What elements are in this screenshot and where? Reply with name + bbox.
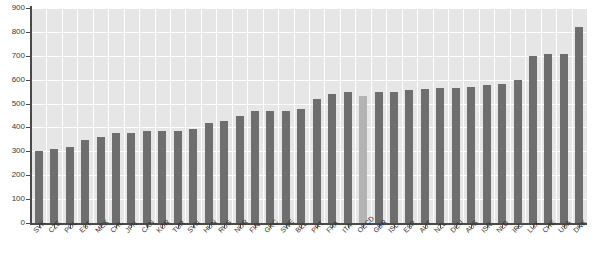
gridline-vertical <box>247 8 248 223</box>
bar-grc[interactable] <box>266 111 274 223</box>
gridline-vertical <box>232 8 233 223</box>
bar-oecd[interactable] <box>359 96 367 223</box>
bar-chart: 0100200300400500600700800900 SVKCZEPOLES… <box>0 0 592 261</box>
bar-usa[interactable] <box>560 54 568 223</box>
gridline-vertical <box>77 8 78 223</box>
x-axis-tick <box>270 225 271 228</box>
gridline-vertical <box>541 8 542 223</box>
x-axis-tick <box>224 225 225 228</box>
bar-hun[interactable] <box>205 123 213 223</box>
y-axis-tick <box>26 151 31 152</box>
bar-gbr[interactable] <box>375 92 383 223</box>
bar-chl[interactable] <box>112 133 120 223</box>
y-axis-tick <box>26 80 31 81</box>
bar-rus[interactable] <box>220 121 228 223</box>
gridline-vertical <box>278 8 279 223</box>
bar-can[interactable] <box>143 131 151 223</box>
x-axis-tick <box>363 225 364 228</box>
x-axis-tick <box>39 225 40 228</box>
bar-ita[interactable] <box>344 92 352 223</box>
bar-fra[interactable] <box>328 94 336 223</box>
x-axis-tick <box>162 225 163 228</box>
bar-lux[interactable] <box>529 56 537 223</box>
x-axis-tick <box>193 225 194 228</box>
x-axis-tick <box>548 225 549 228</box>
x-axis-tick <box>101 225 102 228</box>
bar-isl[interactable] <box>390 92 398 223</box>
gridline-vertical <box>386 8 387 223</box>
y-axis-tick-label: 600 <box>1 75 25 84</box>
bar-fin[interactable] <box>251 111 259 223</box>
x-axis-tick <box>502 225 503 228</box>
plot-area <box>31 8 587 223</box>
bar-cze[interactable] <box>50 149 58 223</box>
gridline-vertical <box>402 8 403 223</box>
y-axis-tick <box>26 223 31 224</box>
gridline-vertical <box>371 8 372 223</box>
x-axis-tick <box>131 225 132 228</box>
bar-kor[interactable] <box>158 131 166 223</box>
x-axis-tick <box>147 225 148 228</box>
bar-deu[interactable] <box>452 88 460 223</box>
gridline-vertical <box>124 8 125 223</box>
gridline-vertical <box>556 8 557 223</box>
gridline-vertical <box>479 8 480 223</box>
gridline-vertical <box>185 8 186 223</box>
y-axis-tick-label: 200 <box>1 170 25 179</box>
gridline-vertical <box>62 8 63 223</box>
y-axis-tick <box>26 199 31 200</box>
bar-isr[interactable] <box>483 85 491 223</box>
x-axis-tick <box>317 225 318 228</box>
gridline-vertical <box>433 8 434 223</box>
bar-jpn[interactable] <box>127 133 135 223</box>
bar-svn[interactable] <box>189 129 197 223</box>
bar-pol[interactable] <box>66 147 74 223</box>
gridline-vertical <box>155 8 156 223</box>
x-axis-tick <box>116 225 117 228</box>
x-axis-tick <box>348 225 349 228</box>
bar-swe[interactable] <box>282 111 290 223</box>
y-axis-tick-label: 700 <box>1 51 25 60</box>
bar-che[interactable] <box>544 54 552 223</box>
bar-nld[interactable] <box>498 84 506 223</box>
x-axis-tick <box>487 225 488 228</box>
x-axis-tick <box>70 225 71 228</box>
bar-aus[interactable] <box>467 87 475 223</box>
bar-bel[interactable] <box>297 109 305 223</box>
x-axis-tick <box>564 225 565 228</box>
bar-nzl[interactable] <box>436 88 444 223</box>
gridline-vertical <box>309 8 310 223</box>
y-axis-tick-label: 0 <box>1 218 25 227</box>
gridline-vertical <box>355 8 356 223</box>
x-axis-tick <box>471 225 472 228</box>
gridline-vertical <box>139 8 140 223</box>
x-axis-tick <box>240 225 241 228</box>
y-axis-tick-label: 900 <box>1 3 25 12</box>
x-axis-tick <box>379 225 380 228</box>
bar-nor[interactable] <box>236 116 244 223</box>
bar-esp[interactable] <box>405 90 413 223</box>
x-axis-tick <box>209 225 210 228</box>
gridline-vertical <box>294 8 295 223</box>
gridline-vertical <box>201 8 202 223</box>
bar-mex[interactable] <box>97 137 105 223</box>
bar-prt[interactable] <box>313 99 321 223</box>
y-axis-tick <box>26 175 31 176</box>
x-axis-tick <box>579 225 580 228</box>
gridline-vertical <box>216 8 217 223</box>
bar-dnk[interactable] <box>575 27 583 223</box>
gridline-vertical <box>324 8 325 223</box>
bar-irl[interactable] <box>514 80 522 223</box>
bar-aut[interactable] <box>421 89 429 223</box>
x-axis-tick <box>394 225 395 228</box>
bar-tur[interactable] <box>174 131 182 223</box>
y-axis-tick <box>26 104 31 105</box>
bar-svk[interactable] <box>35 151 43 223</box>
x-axis-tick <box>255 225 256 228</box>
x-axis-tick <box>456 225 457 228</box>
bar-est[interactable] <box>81 140 89 223</box>
y-axis-tick <box>26 32 31 33</box>
x-axis-tick <box>518 225 519 228</box>
x-axis-tick <box>440 225 441 228</box>
y-axis-tick-labels: 0100200300400500600700800900 <box>0 0 25 261</box>
